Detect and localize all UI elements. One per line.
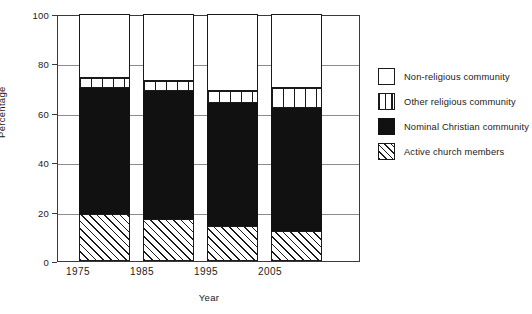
segment-1975-active-church-members[interactable] [79,214,130,261]
plot-area [57,15,360,262]
black-square-icon [378,118,395,135]
segment-1985-non-religious-community[interactable] [143,14,194,81]
diagonal-hatch-square-icon [378,143,395,160]
legend-item-non-religious-community[interactable]: Non-religious community [378,64,530,89]
legend-label-nominal-christian-community: Nominal Christian community [404,122,529,132]
bar-1975[interactable] [79,16,130,261]
legend-label-non-religious-community: Non-religious community [404,72,510,82]
stacked-bar-chart-figure: Percentage 100 80 60 40 20 0 [0,0,532,314]
legend-item-nominal-christian-community[interactable]: Nominal Christian community [378,114,530,139]
segment-1995-non-religious-community[interactable] [207,14,258,91]
segment-1995-active-church-members[interactable] [207,226,258,261]
segment-1985-other-religious-community[interactable] [143,81,194,91]
y-tick-label-60: 60 [15,108,49,119]
bar-1985[interactable] [143,16,194,261]
segment-2005-active-church-members[interactable] [271,231,322,261]
bar-1995[interactable] [207,16,258,261]
y-tick-label-100: 100 [15,10,49,21]
segment-1995-other-religious-community[interactable] [207,91,258,103]
y-axis-title: Percentage [0,86,7,138]
y-tick-label-80: 80 [15,59,49,70]
legend-item-other-religious-community[interactable]: Other religious community [378,89,530,114]
segment-1985-active-church-members[interactable] [143,219,194,261]
x-axis-title: Year [0,292,418,303]
white-square-icon [378,68,395,85]
segment-1975-nominal-christian-community[interactable] [79,88,130,214]
segment-1975-non-religious-community[interactable] [79,14,130,78]
segment-2005-non-religious-community[interactable] [271,14,322,88]
segment-1975-other-religious-community[interactable] [79,78,130,88]
x-tick-label-1995: 1995 [173,266,239,277]
chart-legend: Non-religious community Other religious … [378,64,530,164]
segment-1995-nominal-christian-community[interactable] [207,103,258,227]
legend-item-active-church-members[interactable]: Active church members [378,139,530,164]
segment-2005-nominal-christian-community[interactable] [271,108,322,232]
segment-1985-nominal-christian-community[interactable] [143,91,194,219]
vertical-hatch-square-icon [378,93,395,110]
y-tick-label-40: 40 [15,158,49,169]
legend-label-active-church-members: Active church members [404,147,504,157]
y-tick-label-0: 0 [15,257,49,268]
legend-label-other-religious-community: Other religious community [404,97,516,107]
y-tick-label-20: 20 [15,207,49,218]
x-tick-label-1985: 1985 [109,266,175,277]
x-tick-label-2005: 2005 [237,266,303,277]
bar-2005[interactable] [271,16,322,261]
x-tick-label-1975: 1975 [45,266,111,277]
y-tick-mark-0 [52,262,57,263]
segment-2005-other-religious-community[interactable] [271,88,322,108]
